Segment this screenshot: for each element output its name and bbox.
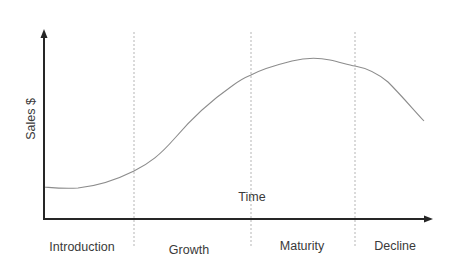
stage-label-maturity: Maturity [280, 239, 324, 253]
y-axis-arrow-icon [41, 29, 48, 38]
sales-curve [44, 58, 424, 188]
stage-label-introduction: Introduction [49, 240, 114, 254]
y-axis-label: Sales $ [24, 98, 38, 140]
x-axis-arrow-icon [424, 216, 433, 223]
x-axis-label: Time [238, 190, 265, 204]
stage-label-growth: Growth [169, 243, 209, 257]
product-life-cycle-chart [0, 0, 454, 269]
stage-label-decline: Decline [374, 239, 416, 253]
